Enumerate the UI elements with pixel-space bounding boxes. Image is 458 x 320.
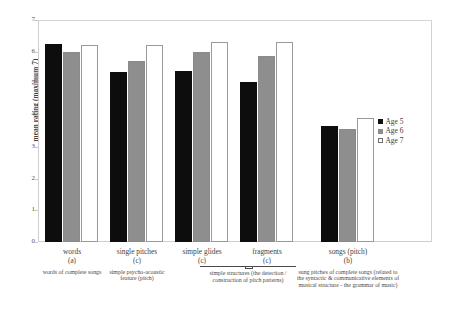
y-tick-label: 2 (0, 175, 38, 182)
x-category-label: words(a)words of complete songs (41, 248, 103, 275)
bar (175, 71, 192, 242)
bar (276, 42, 293, 242)
x-category-code: (a) (41, 257, 103, 265)
y-tick-label: 5 (0, 79, 38, 86)
legend-swatch-icon-age-6 (378, 129, 383, 134)
chart-legend: Age 5 Age 6 Age 7 (378, 117, 403, 145)
legend-label-age-6: Age 6 (386, 126, 404, 135)
bar (63, 52, 80, 242)
legend-swatch-icon-age-7 (378, 138, 383, 143)
bar (321, 126, 338, 242)
x-category-title: songs (pitch) (296, 248, 400, 256)
bar (240, 82, 257, 242)
bar (110, 72, 127, 242)
bar (193, 52, 210, 242)
x-category-code: (c) (104, 257, 170, 265)
y-tick-label: 7 (0, 16, 38, 23)
x-category-description: sung pitches of complete songs (related … (296, 269, 400, 289)
y-tick-label: 3 (0, 143, 38, 150)
legend-item-age-6: Age 6 (378, 126, 403, 135)
y-tick-mark (34, 242, 38, 243)
legend-label-age-5: Age 5 (386, 117, 404, 126)
bar-group (321, 20, 375, 242)
bar (45, 44, 62, 242)
bar-group (240, 20, 294, 242)
bars-layer (38, 20, 432, 242)
legend-swatch-icon-age-5 (378, 119, 383, 124)
bar-group (45, 20, 99, 242)
x-category-title: single pitches (104, 248, 170, 256)
x-category-code: (b) (296, 257, 400, 265)
x-category-description: simple psycho-acoustic feature (pitch) (104, 269, 170, 282)
shared-description-bracket (200, 264, 296, 269)
x-category-title: words (41, 248, 103, 256)
bar-chart-figure: mean rating (maximum 7) 01234567 Age 5 A… (0, 0, 458, 320)
legend-item-age-7: Age 7 (378, 136, 403, 145)
bar (211, 42, 228, 242)
y-tick-label: 4 (0, 111, 38, 118)
x-category-label: songs (pitch)(b)sung pitches of complete… (296, 248, 400, 289)
y-tick-label: 6 (0, 48, 38, 55)
bar (128, 61, 145, 242)
x-category-description: words of complete songs (41, 269, 103, 276)
bar-group (110, 20, 164, 242)
x-category-label: single pitches(c)simple psycho-acoustic … (104, 248, 170, 282)
bar (357, 118, 374, 242)
y-tick-label: 0 (0, 238, 38, 245)
legend-item-age-5: Age 5 (378, 117, 403, 126)
bar (81, 45, 98, 242)
y-tick-label: 1 (0, 206, 38, 213)
bar (258, 56, 275, 242)
bracket-dip (245, 266, 253, 269)
bar (146, 45, 163, 242)
bar-group (175, 20, 229, 242)
x-category-title: simple glides (169, 248, 235, 256)
bar (339, 129, 356, 242)
x-category-title: fragments (236, 248, 298, 256)
legend-label-age-7: Age 7 (386, 136, 404, 145)
shared-description-text: simple structures (the detection / const… (196, 270, 300, 283)
